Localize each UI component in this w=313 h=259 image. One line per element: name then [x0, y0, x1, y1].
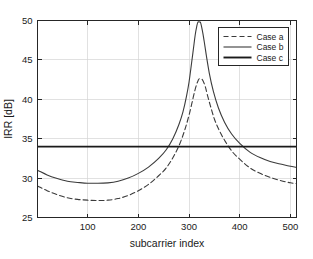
y-tick-label: 45	[22, 54, 33, 65]
legend-label-case-a[interactable]: Case a	[257, 32, 284, 42]
legend-label-case-b[interactable]: Case b	[257, 42, 284, 52]
x-tick-label: 400	[232, 221, 248, 232]
x-tick-label: 500	[282, 221, 298, 232]
legend-label-case-c[interactable]: Case c	[257, 53, 284, 63]
y-tick-label: 25	[22, 212, 33, 223]
x-tick-label: 200	[130, 221, 146, 232]
x-tick-label: 300	[181, 221, 197, 232]
y-tick-label: 50	[22, 15, 33, 26]
irr-line-chart: 100200300400500253035404550 subcarrier i…	[0, 0, 313, 259]
chart-legend[interactable]: Case aCase bCase c	[219, 28, 289, 66]
x-tick-label: 100	[80, 221, 96, 232]
y-tick-label: 35	[22, 133, 33, 144]
y-axis-title: IRR [dB]	[2, 99, 14, 139]
chart-figure: 100200300400500253035404550 subcarrier i…	[0, 0, 313, 259]
y-tick-label: 40	[22, 94, 33, 105]
x-axis-title: subcarrier index	[130, 237, 205, 249]
y-tick-label: 30	[22, 173, 33, 184]
